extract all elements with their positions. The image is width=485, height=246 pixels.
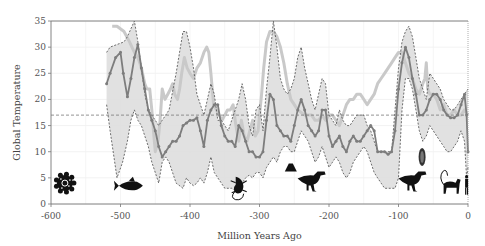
data-point (328, 135, 331, 138)
data-point (442, 108, 445, 111)
data-point (414, 93, 417, 96)
data-point (216, 103, 219, 106)
data-point (206, 119, 209, 122)
data-point (289, 140, 292, 143)
data-point (400, 61, 403, 64)
data-point (338, 135, 341, 138)
data-point (261, 150, 264, 153)
data-point (300, 98, 303, 101)
data-point (161, 155, 164, 158)
data-point (272, 98, 275, 101)
data-point (376, 150, 379, 153)
data-point (366, 129, 369, 132)
data-point (383, 150, 386, 153)
data-point (255, 155, 258, 158)
data-point (185, 121, 188, 124)
x-tick-label: -600 (41, 211, 61, 221)
data-point (428, 98, 431, 101)
data-point (407, 56, 410, 59)
data-point (411, 77, 414, 80)
data-point (140, 67, 143, 70)
data-point (258, 155, 261, 158)
data-point (331, 145, 334, 148)
data-point (317, 129, 320, 132)
data-point (359, 140, 362, 143)
data-point (446, 114, 449, 117)
data-point (432, 93, 435, 96)
data-point (150, 119, 153, 122)
data-point (425, 108, 428, 111)
data-point (456, 114, 459, 117)
data-point (334, 140, 337, 143)
data-point (390, 150, 393, 153)
data-point (126, 95, 129, 98)
data-point (195, 116, 198, 119)
data-point (282, 135, 285, 138)
data-point (453, 116, 456, 119)
data-point (286, 135, 289, 138)
data-point (171, 140, 174, 143)
y-tick-label: 30 (35, 42, 47, 52)
data-point (310, 129, 313, 132)
y-tick-label: 35 (35, 16, 47, 26)
volcano-icon (285, 163, 297, 171)
data-point (244, 140, 247, 143)
temperature-chart: 05101520253035-600-500-400-300-200-1000 … (0, 0, 485, 246)
data-point (192, 119, 195, 122)
data-point (109, 72, 112, 75)
data-point (296, 108, 299, 111)
data-point (178, 135, 181, 138)
data-point (265, 119, 268, 122)
x-tick-label: -400 (180, 211, 200, 221)
data-point (449, 116, 452, 119)
data-point (147, 108, 150, 111)
data-point (463, 93, 466, 96)
y-tick-label: 20 (35, 94, 47, 104)
data-point (223, 135, 226, 138)
data-point (293, 124, 296, 127)
y-axis-title: Global Temperature (11, 64, 22, 161)
data-point (230, 140, 233, 143)
x-axis-title: Million Years Ago (217, 230, 302, 241)
data-point (394, 129, 397, 132)
data-point (460, 103, 463, 106)
data-point (279, 129, 282, 132)
data-point (189, 119, 192, 122)
data-point (421, 114, 424, 117)
data-point (373, 129, 376, 132)
data-point (237, 124, 240, 127)
data-point (105, 82, 108, 85)
data-point (234, 145, 237, 148)
x-tick-label: 0 (465, 211, 471, 221)
data-point (275, 124, 278, 127)
data-point (168, 145, 171, 148)
data-point (321, 108, 324, 111)
data-point (129, 77, 132, 80)
data-point (314, 135, 317, 138)
fish-icon (114, 177, 143, 191)
data-point (307, 124, 310, 127)
data-point (114, 56, 117, 59)
data-point (369, 124, 372, 127)
x-tick-label: -500 (110, 211, 130, 221)
data-point (341, 145, 344, 148)
data-point (348, 140, 351, 143)
data-point (202, 145, 205, 148)
data-point (362, 135, 365, 138)
data-point (143, 87, 146, 90)
y-tick-label: 15 (35, 121, 47, 131)
data-point (324, 108, 327, 111)
y-tick-label: 5 (40, 173, 46, 183)
data-point (122, 72, 125, 75)
dinosaur-icon (398, 172, 426, 192)
data-point (213, 103, 216, 106)
microorganism-icon (54, 172, 76, 195)
y-tick-label: 0 (40, 199, 46, 209)
data-point (404, 46, 407, 49)
data-point (248, 150, 251, 153)
data-point (397, 87, 400, 90)
x-tick-label: -200 (319, 211, 339, 221)
x-tick-label: -300 (249, 211, 269, 221)
data-point (352, 135, 355, 138)
data-point (119, 51, 122, 54)
